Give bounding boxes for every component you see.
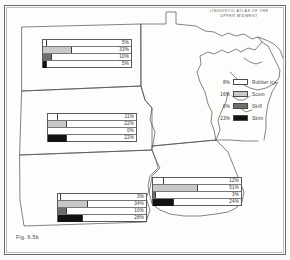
bar-value-label: 10% xyxy=(119,54,129,61)
legend: 8% Rubber ice 16% Scum 6% Skiff 23% Skim xyxy=(214,76,286,124)
lake-superior-north-shore xyxy=(258,37,283,58)
legend-label: Scum xyxy=(252,92,265,97)
legend-item-skim: 23% Skim xyxy=(214,112,286,124)
atlas-title: LINGUISTIC ATLAS OF THE UPPER MIDWEST xyxy=(196,9,282,20)
bar-value-label: 24% xyxy=(229,199,239,206)
bar-row: 10% xyxy=(43,54,131,61)
bar-value-label: 10% xyxy=(134,208,144,215)
bar-scum xyxy=(153,185,198,191)
bar-scum xyxy=(58,201,88,207)
bar-chart-iowa: 12% 51% 3% 24% xyxy=(152,177,242,206)
bar-row: 33% xyxy=(43,47,131,54)
legend-percent: 16% xyxy=(214,92,230,97)
bar-value-label: 28% xyxy=(134,215,144,222)
atlas-title-line-2: UPPER MIDWEST xyxy=(196,14,282,19)
bar-row: 10% xyxy=(58,208,146,215)
legend-swatch-icon xyxy=(233,103,248,109)
bar-row: 51% xyxy=(153,185,241,192)
bar-value-label: 5% xyxy=(122,40,129,47)
bar-scum xyxy=(43,47,72,53)
bar-value-label: 5% xyxy=(122,61,129,68)
bar-value-label: 12% xyxy=(229,178,239,185)
bar-row: 11% xyxy=(48,114,136,121)
bar-value-label: 33% xyxy=(119,47,129,54)
bar-skim xyxy=(58,215,83,222)
bar-scum xyxy=(48,121,67,127)
bar-rubber-ice xyxy=(48,114,58,120)
bar-chart-north-dakota: 5% 33% 10% 5% xyxy=(42,39,132,68)
legend-item-rubber-ice: 8% Rubber ice xyxy=(214,76,286,88)
bar-chart-south-dakota: 11% 22% 0% 22% xyxy=(47,113,137,142)
bar-skiff xyxy=(58,208,67,214)
legend-percent: 6% xyxy=(214,104,230,109)
bar-row: 28% xyxy=(58,215,146,222)
legend-item-scum: 16% Scum xyxy=(214,88,286,100)
bar-row: 22% xyxy=(48,135,136,142)
bar-row: 5% xyxy=(43,40,131,47)
legend-swatch-icon xyxy=(233,79,248,85)
bar-rubber-ice xyxy=(153,178,164,184)
legend-percent: 8% xyxy=(214,80,230,85)
bar-skiff xyxy=(43,54,52,60)
bar-skiff xyxy=(153,192,156,198)
bar-value-label: 11% xyxy=(125,114,134,121)
inland-water-line-1 xyxy=(244,58,262,64)
legend-item-skiff: 6% Skiff xyxy=(214,100,286,112)
legend-label: Rubber ice xyxy=(252,80,277,85)
bar-value-label: 51% xyxy=(229,185,239,192)
bar-row: 3% xyxy=(58,194,146,201)
bar-chart-nebraska: 3% 34% 10% 28% xyxy=(57,193,147,222)
state-outline-wisconsin-south xyxy=(216,140,258,141)
bar-value-label: 3% xyxy=(137,194,144,201)
bar-value-label: 3% xyxy=(232,192,239,199)
bar-skim xyxy=(48,135,67,142)
legend-label: Skiff xyxy=(252,104,262,109)
bar-value-label: 22% xyxy=(124,121,134,128)
bar-row: 12% xyxy=(153,178,241,185)
bar-skim xyxy=(153,199,174,206)
legend-swatch-icon xyxy=(233,91,248,97)
figure-plate: LINGUISTIC ATLAS OF THE UPPER MIDWEST 5%… xyxy=(0,0,290,260)
bar-row: 22% xyxy=(48,121,136,128)
bar-row: 5% xyxy=(43,61,131,68)
bar-skim xyxy=(43,61,47,68)
bar-row: 34% xyxy=(58,201,146,208)
figure-caption: Fig. 6.5b xyxy=(16,234,39,240)
bar-rubber-ice xyxy=(43,40,47,46)
bar-value-label: 22% xyxy=(124,135,134,142)
bar-row: 0% xyxy=(48,128,136,135)
bar-value-label: 34% xyxy=(134,201,144,208)
legend-label: Skim xyxy=(252,116,263,121)
legend-swatch-icon xyxy=(233,115,248,121)
legend-percent: 23% xyxy=(214,116,230,121)
bar-row: 3% xyxy=(153,192,241,199)
bar-value-label: 0% xyxy=(127,128,134,135)
bar-row: 24% xyxy=(153,199,241,206)
bar-rubber-ice xyxy=(58,194,61,200)
